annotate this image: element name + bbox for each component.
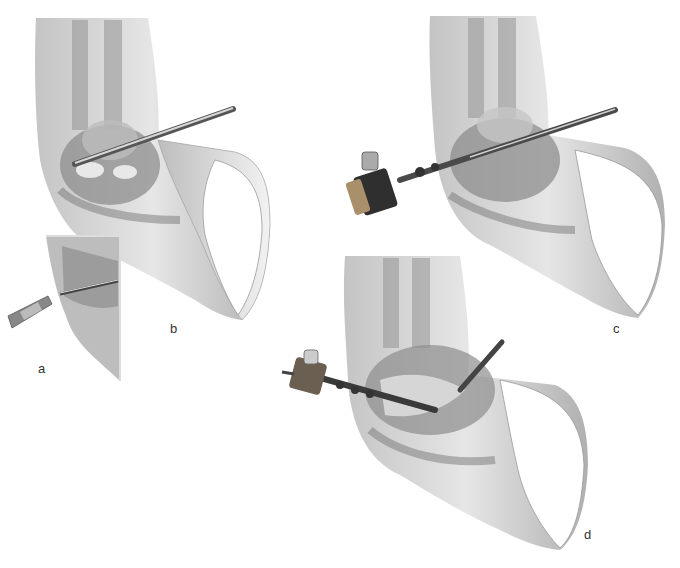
panel-label-c: c (613, 321, 620, 336)
panel-d: d (270, 250, 610, 568)
panel-label-b: b (170, 321, 177, 336)
elbow-illustration-d (270, 250, 610, 568)
inset-illustration-a (0, 236, 125, 386)
panel-label-d: d (584, 527, 591, 542)
panel-label-a: a (38, 361, 45, 376)
panel-a: a (0, 236, 125, 386)
